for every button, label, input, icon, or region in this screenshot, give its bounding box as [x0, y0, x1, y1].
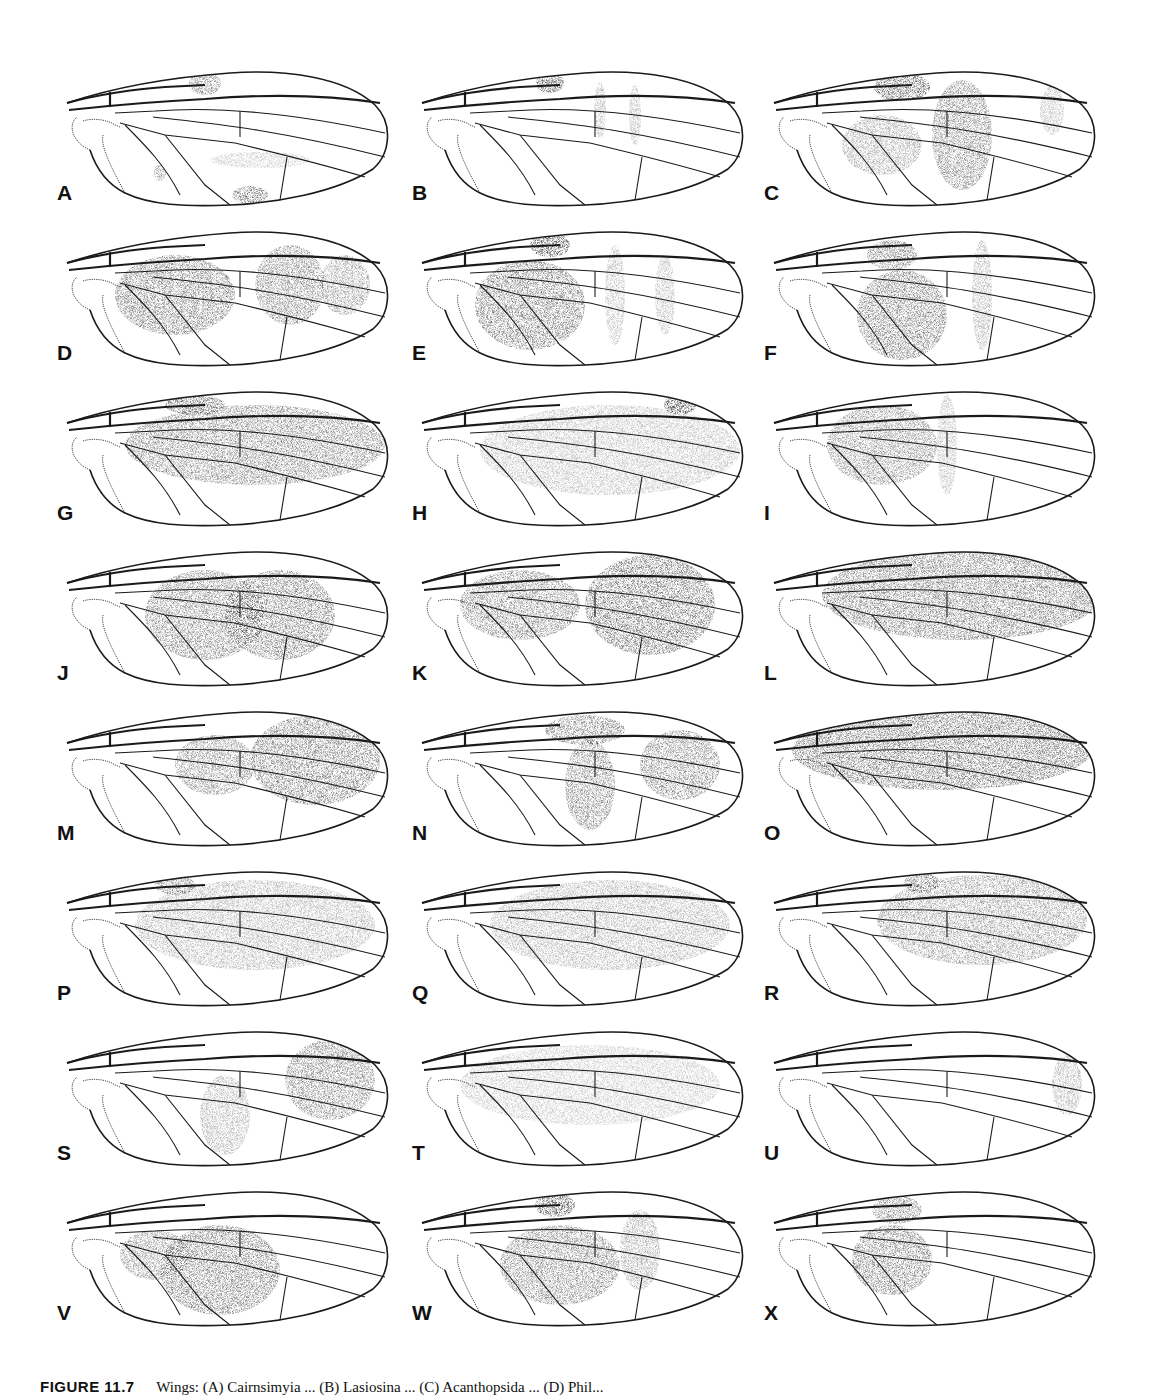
wing-drawing — [410, 545, 755, 705]
wing-drawing — [762, 225, 1107, 385]
wing-drawing — [55, 545, 400, 705]
wing-panel-a: A — [55, 65, 400, 225]
panel-label: T — [412, 1141, 425, 1165]
wing-drawing — [410, 1025, 755, 1185]
wing-drawing — [762, 705, 1107, 865]
wing-panel-h: H — [410, 385, 755, 545]
panel-label: F — [764, 341, 777, 365]
panel-label: P — [57, 981, 71, 1005]
panel-label: S — [57, 1141, 71, 1165]
wing-drawing — [55, 705, 400, 865]
wing-drawing — [410, 225, 755, 385]
panel-label: I — [764, 501, 770, 525]
panel-label: Q — [412, 981, 428, 1005]
wing-drawing — [55, 225, 400, 385]
wing-panel-g: G — [55, 385, 400, 545]
panel-label: H — [412, 501, 427, 525]
wing-drawing — [410, 1185, 755, 1345]
panel-label: V — [57, 1301, 71, 1325]
panel-label: D — [57, 341, 72, 365]
wing-drawing — [762, 865, 1107, 1025]
wing-panel-l: L — [762, 545, 1107, 705]
wing-panel-x: X — [762, 1185, 1107, 1345]
wing-panel-f: F — [762, 225, 1107, 385]
wing-drawing — [55, 1185, 400, 1345]
wing-drawing — [55, 1025, 400, 1185]
wing-drawing — [410, 385, 755, 545]
panel-label: C — [764, 181, 779, 205]
wing-panel-u: U — [762, 1025, 1107, 1185]
wing-panel-e: E — [410, 225, 755, 385]
wing-drawing — [410, 65, 755, 225]
panel-label: U — [764, 1141, 779, 1165]
wing-panel-v: V — [55, 1185, 400, 1345]
wing-drawing — [762, 65, 1107, 225]
panel-label: M — [57, 821, 75, 845]
wing-panel-o: O — [762, 705, 1107, 865]
wing-drawing — [762, 1185, 1107, 1345]
wing-panel-d: D — [55, 225, 400, 385]
panel-label: J — [57, 661, 69, 685]
panel-label: K — [412, 661, 427, 685]
wing-panel-n: N — [410, 705, 755, 865]
figure-number: FIGURE 11.7 — [40, 1378, 135, 1395]
wing-panel-s: S — [55, 1025, 400, 1185]
wing-drawing — [410, 865, 755, 1025]
wing-panel-q: Q — [410, 865, 755, 1025]
wing-drawing — [762, 1025, 1107, 1185]
panel-label: G — [57, 501, 73, 525]
panel-label: B — [412, 181, 427, 205]
wing-panel-p: P — [55, 865, 400, 1025]
panel-label: R — [764, 981, 779, 1005]
wing-panel-j: J — [55, 545, 400, 705]
panel-label: A — [57, 181, 72, 205]
panel-label: N — [412, 821, 427, 845]
wing-drawing — [410, 705, 755, 865]
wing-panel-c: C — [762, 65, 1107, 225]
wing-drawing — [55, 385, 400, 545]
wing-panel-b: B — [410, 65, 755, 225]
panel-label: E — [412, 341, 426, 365]
wing-panel-t: T — [410, 1025, 755, 1185]
wing-panel-k: K — [410, 545, 755, 705]
panel-label: L — [764, 661, 777, 685]
wing-panel-w: W — [410, 1185, 755, 1345]
wing-drawing — [55, 865, 400, 1025]
wing-panel-m: M — [55, 705, 400, 865]
wing-panel-r: R — [762, 865, 1107, 1025]
caption-text: Wings: (A) Cairnsimyia ... (B) Lasiosina… — [156, 1379, 603, 1395]
wing-panel-i: I — [762, 385, 1107, 545]
wing-drawing — [762, 385, 1107, 545]
panel-label: W — [412, 1301, 432, 1325]
wing-drawing — [55, 65, 400, 225]
wing-drawing — [762, 545, 1107, 705]
figure-caption: FIGURE 11.7 Wings: (A) Cairnsimyia ... (… — [40, 1378, 1140, 1396]
panel-label: X — [764, 1301, 778, 1325]
panel-label: O — [764, 821, 780, 845]
